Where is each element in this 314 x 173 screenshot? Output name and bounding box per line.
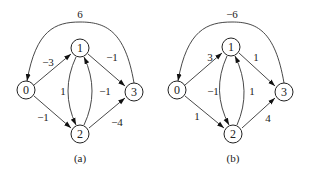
weight-a-2-1: −1: [99, 85, 111, 97]
figure-b: 3 1 1 4 −1 1 −6 0 1 2 3 (b): [168, 8, 293, 165]
svg-text:2: 2: [230, 127, 236, 141]
svg-text:1: 1: [77, 41, 83, 55]
weight-a-1-2: 1: [60, 85, 66, 97]
svg-text:2: 2: [77, 127, 83, 141]
weight-b-3-0: −6: [226, 8, 238, 20]
weight-b-0-1: 3: [207, 51, 213, 63]
weight-b-2-1: 1: [249, 85, 255, 97]
weight-a-2-3: −4: [111, 116, 123, 128]
svg-text:0: 0: [174, 83, 180, 97]
weight-b-2-3: 4: [265, 112, 271, 124]
weight-b-1-3: 1: [253, 51, 259, 63]
weight-a-0-1: −3: [42, 56, 54, 68]
weight-b-0-2: 1: [194, 110, 200, 122]
node-b-0: 0: [168, 81, 186, 99]
edge-a-2-1: [84, 57, 92, 125]
edge-b-2-1: [235, 56, 244, 125]
graph-diagrams: −3 −1 −1 −4 1 −1 6 0 1 2 3 (a): [0, 0, 314, 173]
figure-a: −3 −1 −1 −4 1 −1 6 0 1 2 3 (a): [17, 8, 143, 165]
svg-text:3: 3: [131, 85, 137, 99]
caption-a: (a): [74, 152, 87, 165]
edge-b-0-1: [185, 53, 222, 85]
node-b-1: 1: [222, 38, 240, 56]
weight-a-3-0: 6: [77, 8, 83, 20]
svg-text:3: 3: [281, 85, 287, 99]
node-a-0: 0: [17, 81, 35, 99]
svg-text:0: 0: [23, 83, 29, 97]
weight-b-1-2: −1: [207, 85, 219, 97]
node-b-3: 3: [275, 83, 293, 101]
svg-text:1: 1: [228, 40, 234, 54]
caption-b: (b): [227, 152, 240, 165]
node-a-1: 1: [71, 39, 89, 57]
node-b-2: 2: [224, 125, 242, 143]
edge-b-0-2: [185, 96, 224, 128]
weight-a-0-2: −1: [37, 111, 49, 123]
weight-a-1-3: −1: [106, 51, 118, 63]
edge-a-1-2: [68, 57, 76, 125]
node-a-2: 2: [71, 125, 89, 143]
edge-b-1-2: [219, 56, 229, 125]
node-a-3: 3: [125, 83, 143, 101]
